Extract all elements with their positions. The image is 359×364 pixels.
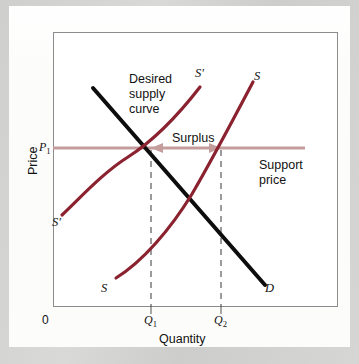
desired-supply-line-3: curve: [129, 102, 160, 116]
q2-subscript: 2: [223, 319, 227, 329]
origin-label: 0: [42, 313, 49, 327]
curve-label-d: D: [265, 281, 274, 296]
support-price-line-1: Support: [259, 158, 303, 172]
sprime-bottom-prime: ′: [58, 215, 61, 229]
x-axis-label-q2: Q2: [214, 313, 227, 330]
support-price-line-2: price: [259, 173, 286, 187]
quantity-guide-lines-group: [151, 150, 221, 307]
x-axis-title: Quantity: [159, 332, 206, 347]
desired-supply-curve-annotation: Desired supply curve: [129, 72, 172, 116]
q2-letter: Q: [214, 313, 223, 327]
price-tick-label-p1: P1: [39, 140, 51, 157]
curve-label-sprime-bottom: S′: [52, 215, 61, 230]
x-axis-ticks-group: [151, 307, 221, 314]
q1-letter: Q: [144, 313, 153, 327]
surplus-arrow-left-icon: [151, 143, 163, 153]
surplus-annotation: Surplus: [172, 131, 214, 146]
curve-label-s-top: S: [254, 69, 260, 84]
curve-label-s-bottom: S: [101, 281, 107, 296]
q1-subscript: 1: [153, 319, 157, 329]
x-axis-label-q1: Q1: [144, 313, 157, 330]
support-price-annotation: Support price: [259, 158, 303, 188]
sprime-top-prime: ′: [201, 66, 204, 80]
demand-curve-line: [93, 88, 265, 285]
chart-canvas: [0, 0, 359, 364]
curve-label-sprime-top: S′: [195, 66, 204, 81]
price-tick-subscript: 1: [46, 146, 50, 156]
figure-root: Price P1 0 Q1 Q2 Quantity Desired supply…: [0, 0, 359, 364]
desired-supply-line-2: supply: [129, 87, 165, 101]
desired-supply-line-1: Desired: [129, 72, 172, 86]
